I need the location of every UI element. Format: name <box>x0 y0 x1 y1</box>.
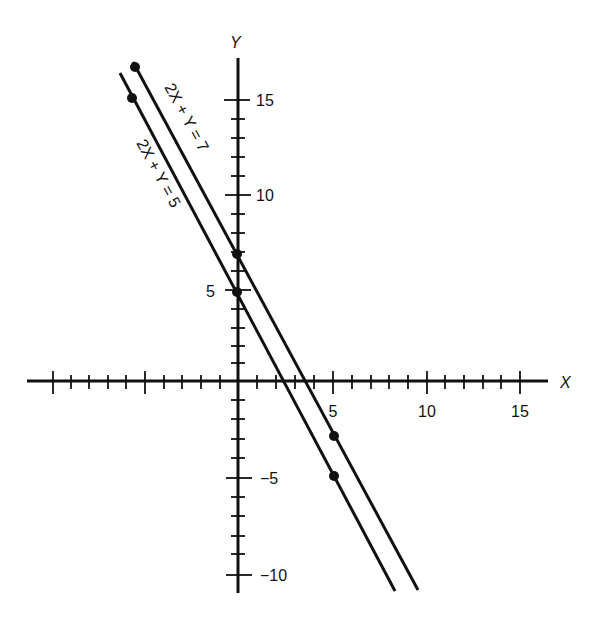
point-marker <box>130 62 140 72</box>
x-tick-label-15: 15 <box>511 403 529 420</box>
y-tick-label-minus-10: −10 <box>260 567 287 584</box>
y-tick-label-15: 15 <box>256 92 274 109</box>
chart: 5 10 15 15 10 5 −5 −10 X Y 2X + Y = 7 2X… <box>0 0 597 625</box>
y-axis-label: Y <box>230 34 242 51</box>
point-marker <box>329 431 339 441</box>
x-tick-label-10: 10 <box>418 403 436 420</box>
x-axis-label: X <box>559 374 572 391</box>
line-2x-plus-y-equals-7 <box>133 62 418 590</box>
point-marker <box>329 471 339 481</box>
y-tick-label-5: 5 <box>206 283 215 300</box>
point-marker <box>232 287 242 297</box>
x-tick-label-5: 5 <box>329 403 338 420</box>
point-marker <box>127 93 137 103</box>
point-marker <box>232 249 242 259</box>
line-2x-plus-y-equals-5 <box>120 73 395 591</box>
equation-label-7: 2X + Y = 7 <box>161 80 212 154</box>
y-tick-label-10: 10 <box>256 187 274 204</box>
y-tick-label-minus-5: −5 <box>260 470 278 487</box>
